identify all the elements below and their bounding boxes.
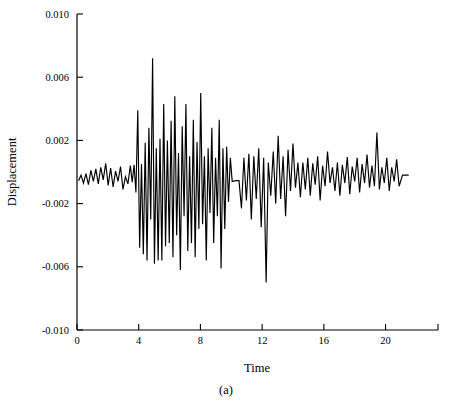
x-tick-label: 0 (74, 335, 79, 346)
figure-caption: (a) (219, 383, 233, 397)
y-tick-label: -0.010 (42, 325, 69, 336)
x-tick-label: 12 (257, 335, 268, 346)
series-line-displacement (79, 58, 409, 282)
y-tick-label: 0.010 (45, 9, 69, 20)
data-series (79, 58, 409, 282)
x-tick-label: 4 (136, 335, 142, 346)
y-axis-label: Displacement (5, 137, 19, 206)
x-axis-label: Time (244, 361, 270, 375)
x-tick-label: 20 (380, 335, 391, 346)
displacement-time-chart: 0.0100.0060.002-0.002-0.006-0.010 048121… (0, 0, 452, 402)
y-tick-label: -0.006 (42, 261, 69, 272)
y-tick-label: 0.006 (45, 72, 69, 83)
x-axis-ticks: 048121620 (74, 324, 390, 346)
chart-figure: 0.0100.0060.002-0.002-0.006-0.010 048121… (0, 0, 452, 402)
y-tick-label: 0.002 (45, 135, 69, 146)
x-tick-label: 8 (198, 335, 203, 346)
x-tick-label: 16 (319, 335, 330, 346)
y-tick-label: -0.002 (42, 198, 69, 209)
